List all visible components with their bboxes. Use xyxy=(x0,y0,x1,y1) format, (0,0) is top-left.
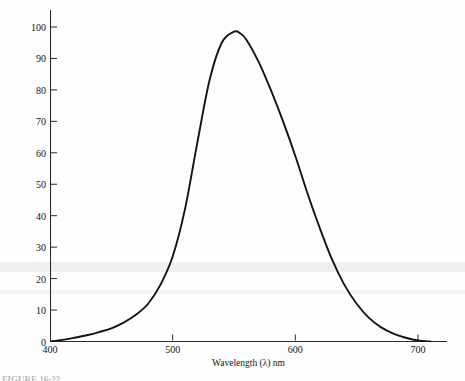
y-axis-tick-label: 90 xyxy=(20,53,46,64)
y-axis-tick-label: 70 xyxy=(20,116,46,127)
y-axis-tick-label: 20 xyxy=(20,273,46,284)
x-axis-tick-label: 600 xyxy=(288,344,303,355)
y-axis-tick-label: 40 xyxy=(20,210,46,221)
x-axis-title: Wavelength (λ) nm xyxy=(50,358,447,368)
y-axis-title: Relative sensitivity of the eye xyxy=(8,0,24,10)
sensitivity-curve-line xyxy=(50,31,430,341)
y-axis-tick-label: 10 xyxy=(20,305,46,316)
x-axis-tick-label: 700 xyxy=(411,344,426,355)
axis-ticks-group xyxy=(50,27,418,342)
figure-caption: FIGURE 16-22 xyxy=(2,374,60,381)
axes-group xyxy=(50,10,447,342)
y-axis-tick-label: 50 xyxy=(20,179,46,190)
x-axis-tick-label: 400 xyxy=(43,344,58,355)
x-axis-tick-label: 500 xyxy=(165,344,180,355)
figure-page: Relative sensitivity of the eye 01020304… xyxy=(0,0,465,381)
y-axis-tick-label: 30 xyxy=(20,242,46,253)
y-axis-tick-label: 80 xyxy=(20,84,46,95)
y-axis-tick-label: 100 xyxy=(20,22,46,33)
y-axis-tick-label: 60 xyxy=(20,147,46,158)
sensitivity-curve-chart xyxy=(50,10,447,342)
y-axis-tick-labels: 0102030405060708090100 xyxy=(16,10,46,342)
plot-area xyxy=(50,10,447,342)
